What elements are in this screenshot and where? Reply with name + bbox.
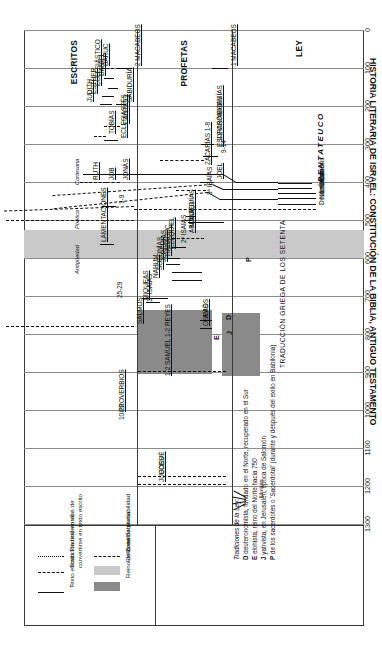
gridline-700	[24, 296, 364, 297]
legend-label-written: Texto escrito	[68, 553, 76, 588]
book-label-jonas: JONÁS	[122, 159, 129, 180]
row-separator-profetas-escritos	[137, 30, 138, 526]
book-marker-ruth	[80, 182, 92, 183]
book-marker-exodo	[278, 188, 312, 189]
book-marker-esther	[102, 96, 114, 97]
figure-stage: HISTORIA LITERARIA DE ISRAEL: CONSTITUCI…	[0, 0, 382, 650]
notes-item-e: E elohísta, reino del Norte hacia 750	[250, 345, 259, 560]
plot-area: LEY PROFETAS ESCRITOS PENTATEUCO Génesis…	[24, 30, 364, 526]
book-label-tobias: TOBÍAS	[108, 111, 115, 134]
book-marker-oseas	[200, 328, 212, 329]
axis-tick-200: 200	[363, 98, 372, 114]
book-marker-cantico	[104, 126, 120, 127]
axis-tick-400: 400	[363, 174, 372, 190]
book-label-antiguedad: Antigüedad	[74, 245, 80, 274]
axis-tick-600: 600	[363, 250, 372, 266]
source-label-d: D	[224, 315, 233, 320]
book-marker-1-macabeos	[212, 68, 228, 69]
gridline-1100	[24, 448, 364, 449]
book-label-job: JOB	[108, 168, 115, 181]
axis-tick-0: 0	[363, 22, 372, 38]
gridline-300	[24, 144, 364, 145]
notes-key-p: P	[269, 556, 276, 560]
book-label-2-isaias: 2ª ISAÍAS	[180, 215, 187, 243]
source-strand-p-1	[134, 209, 316, 210]
book-label-nahum: NAHUM	[152, 254, 159, 278]
book-label-oseas: OSEAS	[202, 304, 209, 326]
source-strand-j-1	[220, 199, 278, 200]
notes-item-d: D deuteronomista, fundado en el Norte, r…	[241, 345, 250, 560]
book-label-ruth: RUTH	[92, 162, 99, 180]
panel-separator	[155, 526, 156, 626]
source-strand-d-1	[236, 182, 278, 183]
legend-swatch-oral	[38, 556, 64, 557]
book-marker-jonas	[106, 182, 120, 183]
book-marker-tobias	[94, 136, 106, 137]
axis-tick-1300: 1300	[363, 514, 372, 534]
notes-text-j: yahvista, en Jerusalén, época de Salomón	[260, 436, 267, 555]
book-marker-judith	[100, 104, 112, 105]
chart-figure: HISTORIA LITERARIA DE ISRAEL: CONSTITUCI…	[0, 0, 382, 650]
book-marker-job	[94, 182, 106, 183]
source-strand-e-2	[212, 184, 223, 190]
book-marker-eclesiastico	[108, 88, 118, 89]
book-marker-salmos-line	[6, 326, 134, 327]
book-marker-genesis	[278, 183, 312, 184]
book-label-lamentaciones: LAMENTACIONES	[100, 188, 107, 243]
book-label-joel: JOEL	[216, 163, 223, 179]
axis-tick-300: 300	[363, 136, 372, 152]
legend-swatch-probability	[94, 556, 120, 557]
legend-swatch-oral-to-text	[38, 572, 64, 573]
book-marker-jueces	[138, 484, 226, 485]
source-label-p: P	[244, 257, 253, 262]
notes-text-p: de los sacerdotes o 'Sacerdotal' (durant…	[269, 345, 276, 554]
notes-heading: Tradiciones de la Ley:	[232, 345, 241, 560]
legend-swatch-written	[38, 592, 64, 593]
axis-tick-900: 900	[363, 364, 372, 380]
book-marker-jeremias	[166, 264, 180, 265]
legend-swatch-exile	[94, 566, 120, 575]
book-marker-habacuc	[168, 258, 180, 259]
book-marker-nahum	[172, 280, 202, 281]
book-marker-daniel	[104, 78, 114, 79]
gridline-1000	[24, 410, 364, 411]
book-label-miqueas: MIQUEAS	[142, 270, 149, 300]
book-label-proverbios-10-22: 10-22	[118, 404, 125, 420]
notes-key-d: D	[242, 555, 249, 560]
notes-item-j: J yahvista, en Jerusalén, época de Salom…	[259, 345, 268, 560]
book-label-2-macabeos: 2 MACABEOS	[134, 24, 141, 66]
book-marker-2-isaias	[172, 238, 204, 239]
axis-tick-1200: 1200	[363, 476, 372, 496]
book-label-3-isaias: 3ª ISAÍAS	[206, 167, 213, 195]
source-strand-d-3	[83, 174, 223, 175]
book-label-deuteronomio: Deuteronomio	[318, 165, 325, 205]
book-label-jueces: JUECES	[158, 457, 165, 482]
notes-block: Tradiciones de la Ley: D deuteronomista,…	[232, 345, 277, 560]
book-label-zacarias-1-8: ZACARÍAS 1-8	[204, 122, 211, 165]
book-label-samuel-reyes: 1-2 SAMUEL 1-2 REYES	[164, 304, 171, 376]
notes-text-e: elohísta, reino del Norte hacia 750	[251, 458, 258, 554]
book-marker-lamentaciones	[100, 244, 114, 245]
book-marker-eclesiastes	[104, 140, 118, 141]
book-label-proverbios-25-29: 25-29	[116, 282, 123, 298]
axis-tick-100: 100	[363, 60, 372, 76]
book-label-proverbios-1-9: 1-9	[118, 195, 125, 204]
axis-tick-700: 700	[363, 288, 372, 304]
notes-item-p: P de los sacerdotes o 'Sacerdotal' (dura…	[268, 345, 277, 560]
source-label-e: E	[212, 335, 221, 340]
book-marker-deuteronomio	[278, 204, 316, 205]
gridline-200	[24, 106, 364, 107]
row-label-escritos: ESCRITOS	[69, 40, 79, 84]
source-strand-e-1	[223, 189, 278, 190]
book-label-salmos: SALMOS	[136, 297, 143, 324]
source-label-j: J	[225, 331, 234, 335]
book-marker-zacarias-1-8	[160, 160, 204, 161]
book-label-cortesana: Cortesana	[74, 159, 80, 185]
book-label-abdias: ABDÍAS	[188, 209, 195, 233]
book-marker-sofonias	[172, 272, 202, 273]
book-label-cantico: CÁNTICO	[122, 95, 129, 124]
row-label-profetas: PROFETAS	[179, 40, 189, 87]
book-marker-samuel-reyes	[138, 371, 226, 372]
legend-swatch-kingdom	[94, 582, 120, 591]
book-label-1-macabeos: 1 MACABEOS	[230, 24, 237, 66]
